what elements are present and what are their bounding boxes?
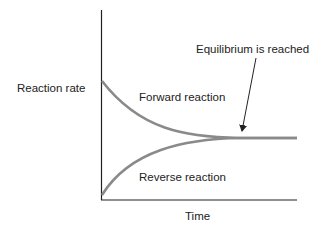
forward-reaction-curve <box>102 81 297 138</box>
equilibrium-annotation: Equilibrium is reached <box>196 43 309 55</box>
reverse-reaction-label: Reverse reaction <box>139 171 226 183</box>
chart-canvas <box>0 0 325 230</box>
forward-reaction-label: Forward reaction <box>139 91 225 103</box>
y-axis-label: Reaction rate <box>17 82 85 94</box>
x-axis-label: Time <box>185 210 210 222</box>
equilibrium-arrow <box>242 58 256 131</box>
reverse-reaction-curve <box>102 138 297 195</box>
